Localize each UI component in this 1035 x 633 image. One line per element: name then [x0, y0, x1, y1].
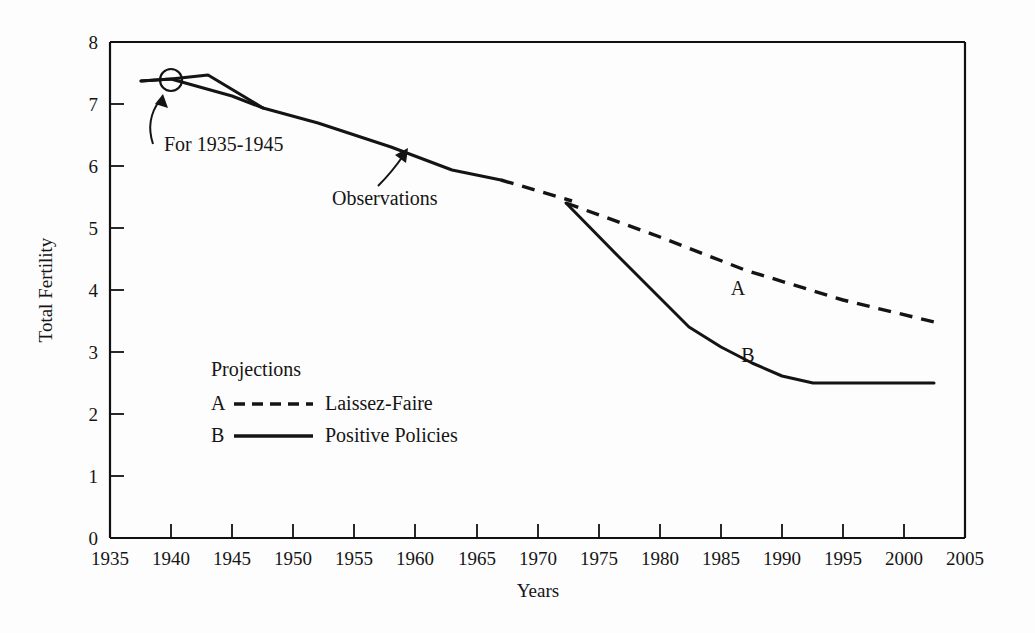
- x-tick-label-1940: 1940: [152, 548, 190, 569]
- x-tick-label-1935: 1935: [91, 548, 129, 569]
- annotation-label-for-1935-1945: For 1935-1945: [164, 133, 283, 155]
- x-tick-label-1970: 1970: [519, 548, 557, 569]
- x-tick-label-2005: 2005: [946, 548, 984, 569]
- legend-item-b[interactable]: B Positive Policies: [211, 424, 458, 446]
- y-tick-label-1: 1: [89, 466, 99, 487]
- y-axis-ticks: [110, 42, 124, 476]
- legend-label-a: Laissez-Faire: [325, 392, 433, 414]
- legend-item-a[interactable]: A Laissez-Faire: [211, 392, 433, 414]
- x-tick-label-1965: 1965: [458, 548, 496, 569]
- x-axis-ticks: [171, 524, 904, 538]
- figure-container: 8 7 6 5 4 3 2 1 0 1935: [0, 0, 1035, 633]
- y-tick-label-8: 8: [89, 32, 99, 53]
- x-tick-label-1995: 1995: [824, 548, 862, 569]
- y-axis-title: Total Fertility: [35, 237, 56, 342]
- y-tick-label-2: 2: [89, 404, 99, 425]
- legend-title: Projections: [211, 358, 301, 381]
- x-tick-label-2000: 2000: [885, 548, 923, 569]
- x-axis-tick-labels: 1935 1940 1945 1950 1955 1960 1965 1970 …: [91, 548, 984, 569]
- series-group: [141, 75, 934, 383]
- legend-key-a: A: [211, 392, 226, 414]
- annotation-leader-line-observations: [378, 156, 403, 186]
- curve-label-a: A: [731, 277, 746, 299]
- y-tick-label-7: 7: [89, 94, 99, 115]
- y-tick-label-4: 4: [89, 280, 99, 301]
- series-observations: [141, 75, 501, 180]
- y-tick-label-0: 0: [89, 528, 99, 549]
- x-tick-label-1955: 1955: [335, 548, 373, 569]
- y-tick-label-6: 6: [89, 156, 99, 177]
- annotation-label-observations: Observations: [332, 187, 438, 209]
- fertility-line-chart: 8 7 6 5 4 3 2 1 0 1935: [0, 0, 1035, 633]
- legend-key-b: B: [211, 424, 224, 446]
- annotation-for-1935-1945: For 1935-1945: [150, 94, 283, 155]
- x-tick-label-1950: 1950: [274, 548, 312, 569]
- x-tick-label-1990: 1990: [763, 548, 801, 569]
- y-axis-tick-labels: 8 7 6 5 4 3 2 1 0: [89, 32, 99, 549]
- x-tick-label-1945: 1945: [213, 548, 251, 569]
- x-tick-label-1960: 1960: [396, 548, 434, 569]
- series-projection-shared: [501, 180, 572, 201]
- legend: Projections A Laissez-Faire B Positive P…: [211, 358, 458, 446]
- y-tick-label-3: 3: [89, 342, 99, 363]
- series-a-laissez-faire: [566, 203, 934, 322]
- annotation-leader-line-1935-1945: [150, 100, 160, 144]
- legend-label-b: Positive Policies: [325, 424, 458, 446]
- x-tick-label-1980: 1980: [641, 548, 679, 569]
- axes-frame: [110, 42, 965, 538]
- x-tick-label-1985: 1985: [702, 548, 740, 569]
- x-axis-title: Years: [517, 580, 559, 601]
- curve-label-b: B: [741, 344, 754, 366]
- y-tick-label-5: 5: [89, 218, 99, 239]
- x-tick-label-1975: 1975: [580, 548, 618, 569]
